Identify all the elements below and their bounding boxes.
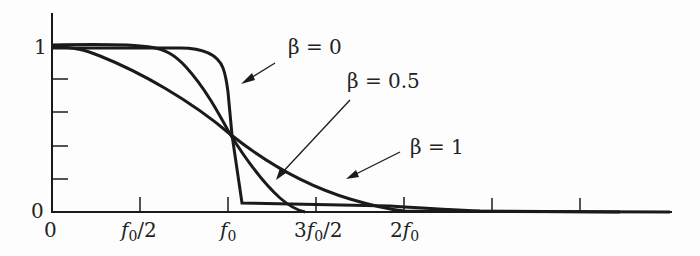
x-label-f0: f0 <box>218 218 236 244</box>
x-label-f0-half: f0/2 <box>119 218 157 244</box>
curve-beta-0_5 <box>52 44 305 212</box>
x-label-3f0-half: 3f0/2 <box>294 218 343 244</box>
y-label-one: 1 <box>34 35 47 59</box>
arrow-beta-0_5 <box>276 100 350 180</box>
raised-cosine-chart: 1 0 0 f0/2 f0 3f0/2 2f0 <box>0 0 700 256</box>
label-beta-0_5: β = 0.5 <box>347 69 420 93</box>
x-label-2f0: 2f0 <box>390 218 419 244</box>
chart-container: 1 0 0 f0/2 f0 3f0/2 2f0 <box>0 0 700 256</box>
y-label-zero: 0 <box>31 199 44 223</box>
arrow-beta-1 <box>346 152 400 179</box>
label-beta-0: β = 0 <box>288 35 342 59</box>
y-ticks <box>52 79 68 179</box>
arrow-beta-0 <box>241 63 275 84</box>
label-beta-1: β = 1 <box>410 135 464 159</box>
x-label-zero: 0 <box>44 218 57 242</box>
